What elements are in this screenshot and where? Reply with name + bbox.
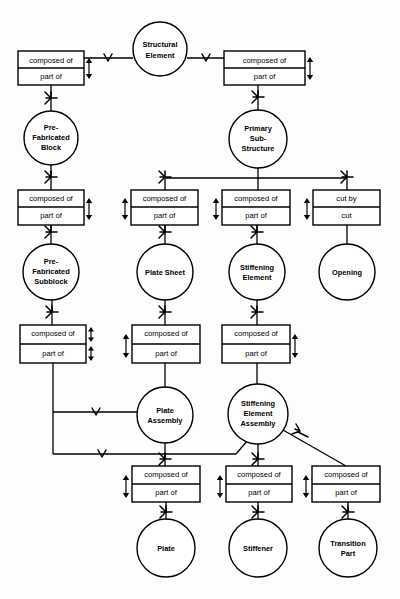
rel-label-top: composed of <box>324 470 368 479</box>
entity-label-line: Pre- <box>44 123 59 132</box>
entity-structural-element[interactable]: Structural Element <box>133 22 187 76</box>
entity-label-line: Plate Sheet <box>145 268 185 277</box>
rel-label-top: composed of <box>234 329 278 338</box>
rel-label-bottom: cut <box>341 211 352 220</box>
entity-label-line: Element <box>243 273 272 282</box>
relationship-box-substructure-stiffening[interactable]: composed of part of <box>213 190 290 225</box>
entity-opening[interactable]: Opening <box>319 244 375 300</box>
rel-label-top: composed of <box>237 470 281 479</box>
entity-label-line: Element <box>146 51 175 60</box>
entity-plate-assembly[interactable]: Plate Assembly <box>137 387 193 443</box>
rel-label-top: composed of <box>144 329 188 338</box>
entity-label-line: Pre- <box>44 257 59 266</box>
entity-plate[interactable]: Plate <box>137 519 195 577</box>
edge-sea-to-rel-transition <box>283 430 346 466</box>
rel-label-top: composed of <box>143 194 187 203</box>
relationship-box-platesheet-plateassembly[interactable]: composed of part of <box>123 325 200 363</box>
entity-label-line: Fabricated <box>32 133 70 142</box>
relationship-box-substructure-opening[interactable]: cut by cut <box>304 190 380 225</box>
rel-label-bottom: part of <box>154 211 176 220</box>
rel-label-bottom: part of <box>42 349 64 358</box>
entity-label-line: Transition <box>330 539 366 548</box>
entity-primary-sub-structure[interactable]: Primary Sub- Structure <box>229 110 287 168</box>
rel-label-bottom: part of <box>245 349 267 358</box>
entity-label-line: Opening <box>332 268 362 277</box>
entity-label-line: Stiffening <box>240 263 275 272</box>
rel-label-bottom: part of <box>245 211 267 220</box>
relationship-box-sea-stiffener[interactable]: composed of part of <box>217 466 292 502</box>
entity-pre-fabricated-subblock[interactable]: Pre- Fabricated Subblock <box>23 244 79 300</box>
relationship-box-plateassembly-plate[interactable]: composed of part of <box>123 466 200 502</box>
rel-label-bottom: part of <box>155 488 177 497</box>
relationship-box-structural-element-block[interactable]: composed of part of <box>18 51 92 85</box>
rel-label-bottom: part of <box>254 72 276 81</box>
relationship-box-block-subblock[interactable]: composed of part of <box>18 190 92 225</box>
entity-label-line: Structural <box>143 40 178 49</box>
rel-label-top: composed of <box>29 194 73 203</box>
rel-label-top: composed of <box>144 470 188 479</box>
crowsfoot-icon <box>292 424 308 437</box>
rel-label-top: composed of <box>243 56 287 65</box>
rel-label-top: composed of <box>31 329 75 338</box>
entity-plate-sheet[interactable]: Plate Sheet <box>137 244 193 300</box>
entity-pre-fabricated-block[interactable]: Pre- Fabricated Block <box>24 111 78 165</box>
entity-label-line: Stiffener <box>243 544 273 553</box>
entity-transition-part[interactable]: Transition Part <box>319 519 377 577</box>
rel-label-bottom: part of <box>248 488 270 497</box>
entity-stiffener[interactable]: Stiffener <box>229 519 287 577</box>
entity-label-line: Assembly <box>148 416 184 425</box>
entity-label-line: Plate <box>157 544 175 553</box>
cardinality-glyphs <box>45 54 354 518</box>
relationship-box-substructure-platesheet[interactable]: composed of part of <box>122 190 198 225</box>
entity-label-line: Plate <box>156 406 174 415</box>
rel-label-bottom: part of <box>335 488 357 497</box>
rel-label-top: composed of <box>29 56 73 65</box>
relationship-box-structural-element-substructure[interactable]: composed of part of <box>224 51 313 85</box>
entity-label-line: Structure <box>242 144 275 153</box>
rel-label-bottom: part of <box>40 211 62 220</box>
connector-lines <box>51 58 348 519</box>
entity-label-line: Assembly <box>241 419 277 428</box>
relationship-box-sea-transitionpart[interactable]: composed of part of <box>303 466 380 502</box>
entity-label-line: Sub- <box>250 134 267 143</box>
entity-label-line: Block <box>41 143 62 152</box>
relationship-box-stiffening-sea[interactable]: composed of part of <box>222 325 298 363</box>
rel-label-bottom: part of <box>40 72 62 81</box>
entity-label-line: Element <box>244 409 273 418</box>
entity-stiffening-element-assembly[interactable]: Stiffening Element Assembly <box>228 384 288 444</box>
er-diagram-canvas: composed of part of composed of part of … <box>0 0 400 599</box>
rel-label-bottom: part of <box>155 349 177 358</box>
entity-label-line: Part <box>341 549 356 558</box>
diagram-svg: composed of part of composed of part of … <box>0 0 400 599</box>
rel-label-top: composed of <box>234 194 278 203</box>
rel-label-top: cut by <box>336 194 356 203</box>
entity-label-line: Stiffening <box>241 399 276 408</box>
relationship-box-subblock-assembly[interactable]: composed of part of <box>20 325 94 363</box>
entity-label-line: Fabricated <box>32 267 70 276</box>
entity-label-line: Subblock <box>34 277 68 286</box>
entity-label-line: Primary <box>244 124 272 133</box>
entity-stiffening-element[interactable]: Stiffening Element <box>229 244 285 300</box>
